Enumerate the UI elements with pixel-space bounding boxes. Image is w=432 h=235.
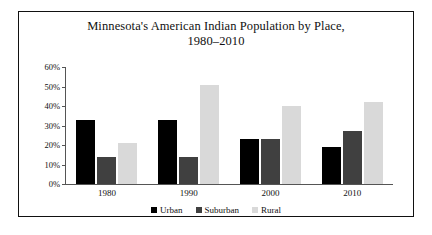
x-axis-tick-label: 2010: [311, 188, 393, 198]
legend-label: Suburban: [205, 205, 240, 215]
x-axis-tick-label: 1990: [148, 188, 230, 198]
bar-urban-2000: [240, 139, 259, 184]
legend-swatch-urban-icon: [151, 207, 157, 213]
chart-title-line-1: Minnesota's American Indian Population b…: [87, 19, 345, 33]
plot-area: 0%10%20%30%40%50%60% 1980199020002010: [65, 67, 393, 185]
x-axis-tick-label: 2000: [230, 188, 312, 198]
legend-item-suburban: Suburban: [196, 205, 240, 215]
y-axis-tick-mark: [62, 165, 65, 166]
x-axis-tick-label: 1980: [66, 188, 148, 198]
y-axis-tick-label: 10%: [44, 160, 60, 170]
bar-suburban-1980: [97, 157, 116, 184]
bar-suburban-2010: [343, 131, 362, 184]
chart-title-line-2: 1980–2010: [19, 34, 413, 49]
y-axis-tick-label: 30%: [44, 121, 60, 131]
bar-group: 2010: [311, 67, 393, 184]
bar-rural-2010: [364, 102, 383, 184]
chart-title: Minnesota's American Indian Population b…: [19, 19, 413, 49]
bar-group: 1980: [66, 67, 148, 184]
bar-rural-1980: [118, 143, 137, 184]
y-axis-tick-mark: [62, 145, 65, 146]
x-axis-line: [65, 184, 393, 185]
y-axis-tick-label: 20%: [44, 140, 60, 150]
legend-label: Rural: [261, 205, 281, 215]
legend-label: Urban: [160, 205, 183, 215]
bar-urban-2010: [322, 147, 341, 184]
bar-groups: 1980199020002010: [66, 67, 393, 184]
y-axis-tick-label: 60%: [44, 62, 60, 72]
y-axis-tick-mark: [62, 87, 65, 88]
bar-urban-1990: [158, 120, 177, 184]
y-axis-tick-label: 40%: [44, 101, 60, 111]
chart-figure: Minnesota's American Indian Population b…: [18, 11, 414, 217]
legend-item-rural: Rural: [252, 205, 281, 215]
y-axis-tick-label: 0%: [49, 179, 60, 189]
y-axis-tick-mark: [62, 184, 65, 185]
y-axis-tick-label: 50%: [44, 82, 60, 92]
bar-rural-2000: [282, 106, 301, 184]
bar-suburban-1990: [179, 157, 198, 184]
legend-item-urban: Urban: [151, 205, 183, 215]
bar-urban-1980: [76, 120, 95, 184]
y-axis-tick-mark: [62, 126, 65, 127]
bar-group: 2000: [230, 67, 312, 184]
legend-swatch-suburban-icon: [196, 207, 202, 213]
bar-group: 1990: [148, 67, 230, 184]
bar-suburban-2000: [261, 139, 280, 184]
legend-swatch-rural-icon: [252, 207, 258, 213]
bar-rural-1990: [200, 85, 219, 184]
y-axis-tick-mark: [62, 106, 65, 107]
y-axis-tick-mark: [62, 67, 65, 68]
chart-legend: UrbanSuburbanRural: [19, 205, 413, 215]
